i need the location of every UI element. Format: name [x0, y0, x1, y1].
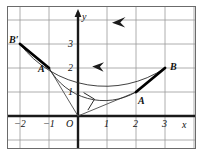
point-label-B: B: [170, 62, 177, 72]
x-axis-label: x: [182, 120, 186, 130]
figure-border: [8, 7, 196, 149]
coordinate-plane-svg: [0, 0, 203, 155]
y-tick-label-1: 1: [68, 87, 73, 97]
x-tick-label-2: 2: [133, 119, 138, 129]
point-label-A: A: [138, 96, 145, 106]
point-label-A-prime: A′: [38, 64, 47, 74]
x-tick-label--1: −1: [43, 119, 55, 129]
origin-label: O: [66, 119, 73, 129]
y-tick-label-2: 2: [68, 63, 73, 73]
x-tick-label-3: 3: [162, 119, 167, 129]
x-tick-label-1: 1: [104, 119, 109, 129]
rotation-figure: x y O −2 −1 1 2 3 1 2 3 A B A′ B′: [0, 0, 203, 155]
point-label-B-prime: B′: [9, 35, 18, 45]
y-tick-label-3: 3: [68, 39, 73, 49]
y-axis-label: y: [82, 12, 86, 22]
x-tick-label--2: −2: [14, 119, 26, 129]
